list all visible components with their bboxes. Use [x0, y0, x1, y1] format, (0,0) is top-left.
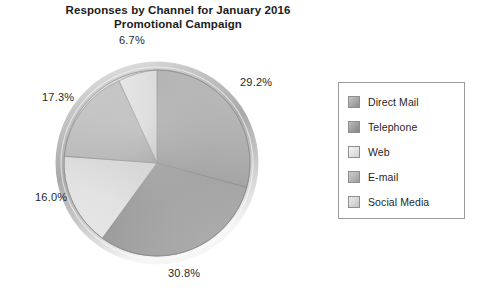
- chart-legend: Direct Mail Telephone Web E-mail Social …: [338, 82, 465, 219]
- legend-item-web[interactable]: Web: [348, 139, 464, 164]
- legend-swatch-direct-mail: [348, 96, 360, 108]
- legend-item-social-media[interactable]: Social Media: [348, 189, 464, 214]
- legend-label-social-media: Social Media: [368, 196, 429, 208]
- chart-title: Responses by Channel for January 2016 Pr…: [28, 4, 328, 31]
- legend-label-direct-mail: Direct Mail: [368, 96, 419, 108]
- pie-label-telephone: 30.8%: [168, 267, 200, 279]
- pie-label-email: 17.3%: [42, 91, 74, 103]
- legend-item-telephone[interactable]: Telephone: [348, 114, 464, 139]
- legend-swatch-web: [348, 146, 360, 158]
- pie-label-web: 16.0%: [35, 191, 67, 203]
- pie-chart-svg: [55, 60, 261, 268]
- pie-gloss-overlay: [64, 70, 250, 256]
- legend-item-direct-mail[interactable]: Direct Mail: [348, 89, 464, 114]
- pie-chart: [55, 60, 261, 268]
- legend-swatch-telephone: [348, 121, 360, 133]
- legend-item-email[interactable]: E-mail: [348, 164, 464, 189]
- legend-label-email: E-mail: [368, 171, 398, 183]
- legend-swatch-social-media: [348, 196, 360, 208]
- legend-swatch-email: [348, 171, 360, 183]
- chart-title-line-2: Promotional Campaign: [28, 18, 328, 32]
- legend-label-telephone: Telephone: [368, 121, 417, 133]
- pie-label-social-media: 6.7%: [119, 34, 145, 46]
- legend-label-web: Web: [368, 146, 390, 158]
- chart-title-line-1: Responses by Channel for January 2016: [28, 4, 328, 18]
- pie-label-direct-mail: 29.2%: [240, 76, 272, 88]
